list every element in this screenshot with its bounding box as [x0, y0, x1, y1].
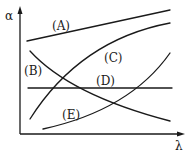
label-a: (A): [52, 19, 70, 33]
diagram: α λ (A) (B) (C) (D) (E): [0, 0, 191, 154]
label-c: (C): [104, 51, 123, 65]
x-axis-arrow-icon: [177, 132, 185, 137]
y-axis-label: α: [5, 9, 13, 23]
y-axis-arrow-icon: [18, 6, 23, 14]
x-axis-label: λ: [175, 139, 183, 153]
label-b: (B): [24, 64, 42, 78]
label-d: (D): [96, 74, 115, 88]
label-e: (E): [62, 108, 80, 122]
curve-a: [27, 10, 170, 41]
curve-c: [30, 23, 170, 119]
